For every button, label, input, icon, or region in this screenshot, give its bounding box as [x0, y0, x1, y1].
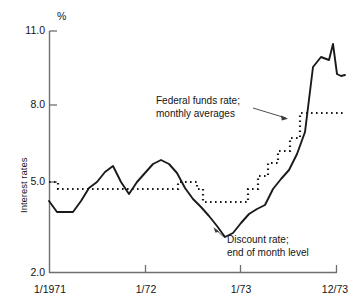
interest-rates-chart: % 11.0 8.0 5.0 2.0 1/1971 1/72 1/73 12/7… — [0, 0, 360, 307]
y-axis-ticks — [50, 31, 58, 182]
x-tick-label-1-73: 1/73 — [213, 283, 269, 295]
y-axis-title: Interest rates — [18, 158, 29, 213]
axis-lines — [49, 31, 337, 273]
annotation-leaders — [213, 108, 288, 238]
federal-funds-rate-line — [49, 44, 345, 237]
x-axis-ticks — [146, 265, 337, 273]
discount-rate-annotation-line1: Discount rate; — [227, 234, 289, 247]
x-tick-label-1-1971: 1/1971 — [20, 283, 80, 295]
federal-funds-annotation-line2: monthly averages — [156, 108, 235, 121]
unit-label: % — [57, 10, 66, 22]
x-tick-label-12-73: 12/73 — [307, 283, 360, 295]
discount-rate-annotation-line2: end of month level — [227, 247, 309, 260]
federal-funds-annotation-line1: Federal funds rate; — [156, 95, 240, 108]
x-tick-label-1-72: 1/72 — [118, 283, 174, 295]
chart-canvas — [0, 0, 360, 307]
y-tick-label-11: 11.0 — [5, 24, 45, 36]
y-tick-label-2: 2.0 — [5, 266, 45, 278]
federal-arrowhead — [281, 116, 288, 121]
federal-leader-line — [253, 108, 286, 118]
discount-rate-line — [49, 113, 345, 202]
y-tick-label-8: 8.0 — [5, 98, 45, 110]
